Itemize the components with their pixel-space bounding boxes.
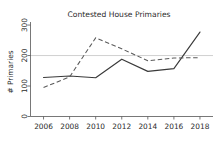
data-series-group	[44, 32, 200, 87]
series-line-solid	[44, 32, 200, 78]
chart-title: Contested House Primaries	[67, 10, 170, 19]
y-tick-label-200: 200	[20, 48, 29, 62]
x-axis-ticks	[44, 117, 200, 120]
chart-container: Contested House Primaries # Primaries 01…	[0, 0, 219, 153]
x-tick-label-2008: 2008	[60, 122, 79, 131]
x-tick-label-2010: 2010	[86, 122, 105, 131]
y-axis-tick-labels: 0100200300	[20, 18, 29, 119]
line-chart: Contested House Primaries # Primaries 01…	[0, 0, 219, 153]
y-axis-label: # Primaries	[6, 50, 15, 93]
x-axis-tick-labels: 2006200820102012201420162018	[34, 122, 210, 131]
y-tick-label-300: 300	[20, 18, 29, 32]
series-line-dashed	[44, 38, 200, 88]
x-tick-label-2006: 2006	[34, 122, 53, 131]
x-tick-label-2012: 2012	[112, 122, 131, 131]
y-tick-label-100: 100	[20, 79, 29, 93]
y-axis-ticks	[28, 25, 31, 116]
y-tick-label-0: 0	[20, 114, 29, 119]
x-tick-label-2016: 2016	[164, 122, 183, 131]
x-tick-label-2014: 2014	[138, 122, 157, 131]
x-tick-label-2018: 2018	[191, 122, 210, 131]
